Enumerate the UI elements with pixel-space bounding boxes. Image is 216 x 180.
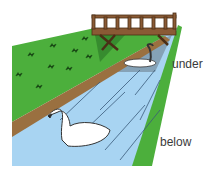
label-below: below (160, 135, 191, 149)
label-under: under (172, 57, 203, 71)
river-scene-illustration (0, 0, 216, 180)
